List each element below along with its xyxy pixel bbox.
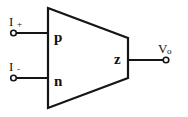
signal-label-input-minus-main: I	[9, 59, 13, 74]
signal-label-input-plus-sub: +	[17, 19, 22, 29]
terminal-node-input-minus	[11, 75, 17, 81]
port-label-n: n	[54, 73, 63, 89]
circuit-diagram: p n z I + I - V o	[0, 0, 188, 117]
signal-label-input-minus-sub: -	[17, 64, 20, 74]
port-label-p: p	[54, 29, 62, 45]
port-label-z: z	[114, 51, 121, 67]
signal-label-input-plus-main: I	[9, 14, 13, 29]
schematic-canvas: p n z I + I - V o	[0, 0, 188, 117]
terminal-node-input-plus	[11, 30, 17, 36]
terminal-node-output	[163, 57, 169, 63]
signal-label-output-sub: o	[167, 46, 172, 56]
